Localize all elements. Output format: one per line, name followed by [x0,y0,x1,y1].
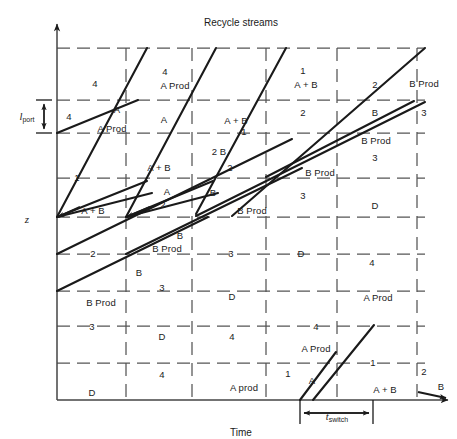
zone-label-l07: B Prod [409,79,439,89]
zone-label-l35: D [298,249,305,259]
zone-label-l53: A + B [373,385,396,395]
zone-label-l37: B [136,268,142,278]
zone-label-l34: 3 [228,249,233,259]
zone-label-l06: 2 [372,80,377,90]
zone-label-l42: A Prod [363,293,392,303]
zone-label-l09: A [114,105,120,115]
zone-label-l10: A Prod [97,124,126,134]
zone-label-l36: 4 [369,258,374,268]
zone-label-l39: B Prod [86,298,116,308]
zone-label-l30: B Prod [237,206,267,216]
zone-label-l54: 2 [421,367,426,377]
zone-label-l33: B Prod [152,244,182,254]
zone-label-l05: A + B [294,80,317,90]
zone-label-l18: 2 B [212,147,227,157]
zone-label-l50: A prod [230,383,258,393]
zone-label-l17: B Prod [361,136,391,146]
port-length-label: lport [20,111,35,122]
trajectory-lines [57,48,425,400]
zone-label-l43: 3 [89,322,94,332]
zone-label-l20: 1 [74,173,79,183]
zone-label-l40: D [229,292,236,302]
y-axis-label: z [25,213,29,225]
zone-label-l19: 3 [372,153,377,163]
zone-label-l49: D [89,388,96,398]
zone-label-l16: 3 [421,108,426,118]
zone-label-l25: B [210,188,216,198]
zone-label-l02: 4 [162,67,167,77]
port-length-sub: port [22,116,34,123]
zone-label-l13: A + B [224,116,247,126]
figure-canvas [0,0,457,439]
zone-label-l08: 4 [66,112,71,122]
zone-label-l32: 2 [90,249,95,259]
smb-schedule-figure: Recycle streams z Time lport tswitch 44A… [0,0,457,439]
zone-label-l26: 3 [300,191,305,201]
zone-label-l29: 2 [160,200,165,210]
zone-label-l31: B [177,231,183,241]
zone-label-l03: A Prod [160,81,189,91]
switch-time-sub: switch [329,416,348,423]
zone-label-l46: A Prod [301,344,330,354]
switch-time-label: tswitch [326,411,348,422]
zone-label-l21: A + B [147,163,170,173]
zone-label-l04: 1 [300,66,305,76]
zone-label-l45: 4 [229,332,234,342]
zone-label-l22: 2 [227,163,232,173]
x-axis-label: Time [230,427,252,438]
top-title: Recycle streams [204,17,278,28]
zone-label-l47: 1 [370,358,375,368]
zone-label-l01: 4 [92,79,97,89]
zone-label-l23: B Prod [305,168,335,178]
grid-lines-vertical [126,48,417,400]
zone-label-l41: 4 [313,322,318,332]
zone-label-l15: B [372,108,378,118]
port-length-dimension [36,100,52,133]
zone-label-l11: A [161,115,167,125]
zone-label-l12: 1 [241,127,246,137]
zone-label-l24: A [164,187,170,197]
zone-label-l51: 1 [285,369,290,379]
zone-label-l55: B [438,382,444,392]
zone-label-l44: D [159,332,166,342]
zone-label-l52: A [309,376,315,386]
zone-label-l28: A + B [81,206,104,216]
zone-label-l27: D [372,201,379,211]
zone-label-l48: 4 [159,370,164,380]
zone-label-l38: 3 [159,283,164,293]
zone-label-l14: 2 [300,108,305,118]
